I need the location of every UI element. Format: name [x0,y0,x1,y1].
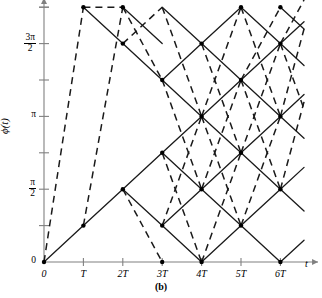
trellis-branch-dashed [280,102,304,189]
x-axis-variable-label: t [305,258,308,269]
trellis-branch-dashed [280,44,304,110]
x-tick-label: 5T [227,268,255,279]
phase-state-node [199,41,203,45]
y-axis-label-t: t [0,122,10,125]
phase-state-node [121,41,125,45]
x-tick-label: T [69,268,97,279]
phase-trellis-figure: ϕ(t) 0T2T3T4T5T6T 0π2π3π2 (b) t [0,0,322,298]
trellis-branch-dashed [44,7,83,262]
y-axis-label-close: ) [0,118,10,122]
trellis-branch-dashed [123,7,162,80]
trellis-branch-solid [280,116,304,138]
phase-state-node [42,260,46,264]
phase-state-node [121,187,125,191]
trellis-branch-solid [280,167,304,189]
trellis-branch-solid [83,7,122,43]
trellis-branch-solid [123,189,162,225]
phase-state-node [239,151,243,155]
trellis-branch-solid [280,189,304,211]
phase-state-node [239,223,243,227]
phase-state-node [278,260,282,264]
trellis-branch-solid [202,226,241,262]
y-axis-label-phi: ϕ( [0,125,10,134]
x-tick-label: 0 [30,268,58,279]
phase-state-node [278,5,282,9]
phase-state-node [160,260,164,264]
trellis-branch-solid [280,240,304,262]
trellis-branch-dashed [123,189,162,262]
y-tick-label: 0 [10,256,36,266]
trellis-branch-solid [162,44,201,80]
trellis-branch-solid [123,44,162,80]
x-tick-label: 6T [266,268,294,279]
trellis-branch-solid [241,189,280,225]
trellis-branch-solid [241,7,280,43]
phase-state-node [199,187,203,191]
trellis-branch-solid [162,189,201,225]
y-tick-label: π2 [10,178,36,199]
trellis-branch-dashed [83,7,122,225]
trellis-branch-dashed [280,0,304,44]
trellis-branch-dashed [280,29,304,116]
trellis-branch-solid [280,44,304,66]
phase-state-node [160,151,164,155]
y-tick-label: 3π2 [10,33,36,54]
y-axis-label: ϕ(t) [0,106,10,146]
phase-state-node [81,5,85,9]
phase-state-node [239,78,243,82]
phase-state-node [199,260,203,264]
trellis-plot-svg [0,0,322,298]
figure-caption: (b) [0,281,322,292]
y-axis-arrowhead [41,0,47,4]
trellis-branch-dashed [241,7,280,80]
x-tick-label: 3T [148,268,176,279]
y-tick-label: π [10,110,36,120]
phase-state-node [278,114,282,118]
phase-state-node [160,223,164,227]
trellis-branch-solid [44,226,83,262]
trellis-branch-solid [83,189,122,225]
phase-state-node [278,41,282,45]
x-axis-arrowhead [312,259,318,265]
trellis-branch-solid [162,7,201,43]
trellis-branch-solid [280,7,304,29]
phase-state-node [278,187,282,191]
phase-state-node [199,114,203,118]
phase-state-node [121,5,125,9]
trellis-branch-solid [202,44,241,80]
phase-state-node [81,223,85,227]
phase-state-node [239,5,243,9]
x-tick-label: 2T [109,268,137,279]
phase-state-node [160,78,164,82]
trellis-branch-solid [241,226,280,262]
trellis-branch-solid [123,7,162,43]
x-tick-label: 4T [188,268,216,279]
trellis-branch-solid [123,153,162,189]
